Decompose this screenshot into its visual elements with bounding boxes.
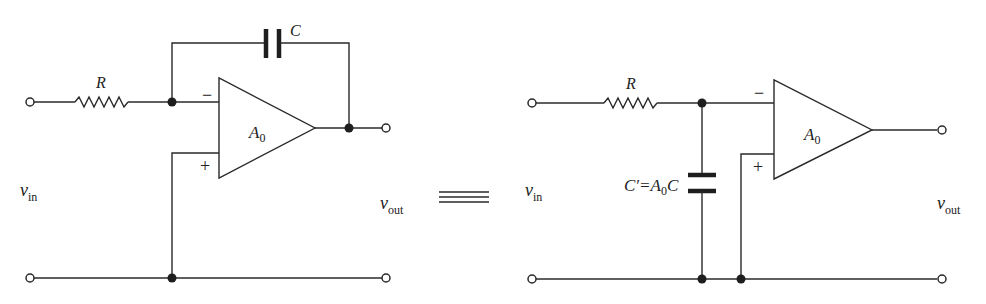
output-ground-terminal	[382, 274, 390, 282]
opamp-triangle	[774, 80, 872, 179]
resistor-r	[75, 97, 128, 107]
junction-node	[168, 98, 177, 107]
vin-label: vin	[20, 180, 37, 204]
junction-node	[345, 124, 354, 133]
capacitor-label: C	[290, 22, 301, 39]
junction-node	[698, 99, 707, 108]
opamp-triangle	[219, 78, 315, 178]
right-circuit: R − + A0 C′=A0C vin vout	[525, 75, 961, 284]
minus-sign: −	[202, 85, 212, 105]
resistor-label: R	[95, 74, 106, 91]
plus-sign: +	[753, 157, 763, 177]
input-terminal	[528, 99, 536, 107]
capacitor-label: C′=A0C	[624, 176, 679, 198]
noninverting-input-wire	[172, 153, 219, 278]
output-terminal	[938, 126, 946, 134]
output-ground-terminal	[938, 275, 946, 283]
plus-sign: +	[200, 156, 210, 176]
resistor-r	[604, 98, 657, 108]
opamp-gain-label: A0	[803, 125, 820, 147]
left-circuit: R C − + A0 vin vout	[20, 22, 404, 283]
vout-label: vout	[937, 193, 961, 217]
vin-label: vin	[525, 180, 542, 204]
input-ground-terminal	[26, 274, 34, 282]
resistor-label: R	[625, 75, 636, 92]
input-terminal	[26, 98, 34, 106]
equivalence-symbol	[439, 192, 489, 202]
vout-label: vout	[380, 193, 404, 217]
output-terminal	[382, 124, 390, 132]
junction-node	[698, 275, 707, 284]
junction-node	[737, 275, 746, 284]
opamp-gain-label: A0	[248, 123, 265, 145]
miller-equivalence-diagram: R C − + A0 vin vout	[0, 0, 986, 304]
junction-node	[168, 274, 177, 283]
input-ground-terminal	[528, 275, 536, 283]
minus-sign: −	[754, 83, 764, 103]
